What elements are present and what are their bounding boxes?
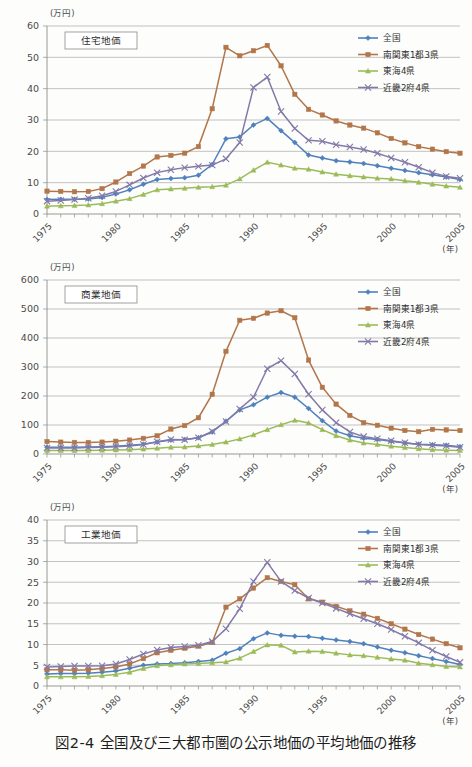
data-point-marker [264, 366, 270, 372]
y-axis-tick-label: 50 [27, 52, 39, 63]
panel-title-box: 商業地価 [65, 286, 137, 303]
data-point-marker [366, 530, 371, 535]
data-point-marker [168, 176, 173, 181]
data-point-marker [389, 426, 393, 430]
legend-item-zenkoku[interactable]: 全国 [358, 526, 401, 537]
y-axis-tick-label: 0 [33, 448, 39, 459]
data-point-marker [320, 385, 324, 389]
data-point-marker [279, 390, 284, 395]
y-axis-tick-label: 600 [21, 274, 39, 285]
data-point-marker [430, 427, 434, 431]
data-point-marker [444, 428, 448, 432]
data-point-marker [388, 626, 394, 632]
legend-item-label: 東海4県 [383, 65, 415, 76]
data-point-marker [334, 158, 339, 163]
series-line [47, 393, 460, 448]
legend-item-minamikanto[interactable]: 南関東1都3県 [358, 49, 439, 60]
data-point-marker [430, 147, 434, 151]
x-axis-tick-label: 2000 [375, 693, 398, 716]
data-point-marker [320, 113, 324, 117]
data-point-marker [182, 151, 186, 155]
y-axis-tick-label: 20 [27, 597, 39, 608]
figure-page: (万円)(年)010203040506019751980198519901995… [0, 0, 472, 767]
legend-item-tokai[interactable]: 東海4県 [358, 65, 415, 76]
data-point-marker [223, 156, 229, 162]
data-point-marker [210, 107, 214, 111]
data-point-marker [72, 440, 76, 444]
data-point-marker [402, 633, 408, 639]
data-point-marker [141, 164, 145, 168]
x-axis-tick-label: 2005 [444, 461, 467, 484]
legend-item-label: 南関東1都3県 [383, 543, 439, 554]
data-point-marker [251, 316, 255, 320]
legend-item-label: 近畿2府4県 [383, 336, 430, 347]
data-point-marker [265, 575, 269, 579]
data-point-marker [417, 632, 421, 636]
legend-item-kinki[interactable]: 近畿2府4県 [358, 82, 430, 93]
legend-item-label: 南関東1都3県 [383, 303, 439, 314]
x-axis-tick-label: 1995 [306, 461, 329, 484]
chart-panel-residential: (万円)(年)010203040506019751980198519901995… [0, 4, 472, 258]
legend-item-label: 東海4県 [383, 559, 415, 570]
data-point-marker [251, 49, 255, 53]
legend-item-tokai[interactable]: 東海4県 [358, 319, 415, 330]
legend-item-minamikanto[interactable]: 南関東1都3県 [358, 303, 439, 314]
chart-svg-residential: (万円)(年)010203040506019751980198519901995… [0, 4, 472, 258]
y-axis-tick-label: 400 [21, 332, 39, 343]
series-line [47, 311, 460, 443]
data-point-marker [127, 171, 131, 175]
data-point-marker [361, 126, 365, 130]
data-point-marker [155, 434, 159, 438]
data-point-marker [223, 651, 228, 656]
legend-item-zenkoku[interactable]: 全国 [358, 32, 401, 43]
data-point-marker [458, 151, 462, 155]
data-point-marker [127, 662, 131, 666]
series-zenkoku [45, 390, 463, 450]
legend-item-minamikanto[interactable]: 南関東1都3県 [358, 543, 439, 554]
data-point-marker [155, 155, 159, 159]
data-point-marker [169, 427, 173, 431]
legend-item-label: 東海4県 [383, 319, 415, 330]
x-axis-tick-label: 1980 [100, 221, 123, 244]
x-axis-unit-label: (年) [442, 244, 458, 254]
data-point-marker [389, 166, 394, 171]
y-axis-tick-label: 30 [27, 114, 39, 125]
data-point-marker [458, 428, 462, 432]
data-point-marker [224, 349, 228, 353]
data-point-marker [334, 637, 339, 642]
x-axis-tick-label: 1990 [237, 461, 260, 484]
panel-title-box: 工業地価 [65, 526, 137, 543]
data-point-marker [100, 186, 104, 190]
legend-item-tokai[interactable]: 東海4県 [358, 559, 415, 570]
data-point-marker [141, 656, 145, 660]
legend-item-zenkoku[interactable]: 全国 [358, 286, 401, 297]
x-axis-tick-label: 1975 [31, 221, 54, 244]
legend-item-kinki[interactable]: 近畿2府4県 [358, 576, 430, 587]
x-axis-tick-label: 1980 [100, 693, 123, 716]
data-point-marker [224, 605, 228, 609]
data-point-marker [59, 440, 63, 444]
series-kinki [44, 74, 463, 204]
data-point-marker [250, 394, 256, 400]
data-point-marker [223, 626, 229, 632]
data-point-marker [320, 155, 325, 160]
data-point-marker [430, 637, 434, 641]
data-point-marker [389, 648, 394, 653]
data-point-marker [292, 634, 297, 639]
data-point-marker [366, 290, 371, 295]
series-tokai [45, 160, 463, 208]
data-point-marker [292, 587, 298, 593]
y-axis-tick-label: 15 [27, 618, 39, 629]
figure-caption: 図2-4 全国及び三大都市圏の公示地価の平均地価の推移 [0, 731, 472, 752]
data-point-marker [279, 309, 283, 313]
data-point-marker [403, 627, 407, 631]
chart-svg-commercial: (万円)(年)010020030040050060019751980198519… [0, 258, 472, 498]
data-point-marker [444, 641, 448, 645]
data-point-marker [430, 656, 435, 661]
data-point-marker [279, 64, 283, 68]
series-tokai [45, 642, 463, 678]
panel-title-label: 住宅地価 [81, 35, 121, 46]
data-point-marker [375, 616, 379, 620]
data-point-marker [389, 622, 393, 626]
legend-item-kinki[interactable]: 近畿2府4県 [358, 336, 430, 347]
